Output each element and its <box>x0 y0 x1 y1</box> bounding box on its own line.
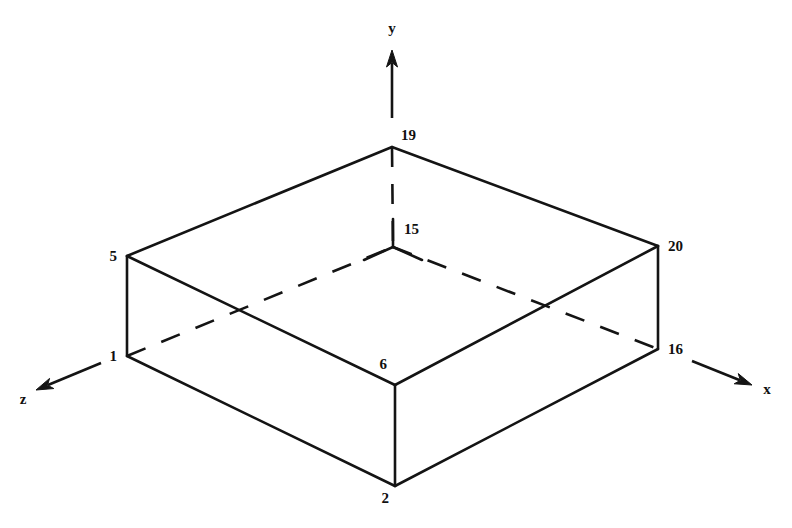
z-axis-label: z <box>20 391 27 407</box>
z-axis-arrow: z <box>20 363 101 407</box>
node-1-label: 1 <box>110 348 118 364</box>
hidden-edge-1-15 <box>127 247 393 356</box>
hidden-edge-group <box>127 147 658 356</box>
y-axis-arrow: y <box>387 20 398 118</box>
x-axis-line <box>692 361 740 380</box>
hidden-corner-stub-down-right <box>393 247 422 260</box>
node-16-label: 16 <box>668 341 684 357</box>
z-axis-line <box>48 363 101 385</box>
hidden-edge-15-16 <box>393 247 658 349</box>
node-20-label: 20 <box>668 238 683 254</box>
edge-19-20 <box>392 147 658 246</box>
figure-container: y x z 191552016162 <box>0 0 792 528</box>
node-2-label: 2 <box>382 490 390 506</box>
hidden-corner-stub-down-left <box>364 247 393 260</box>
edge-6-20 <box>395 246 658 385</box>
node-5-label: 5 <box>110 248 118 264</box>
node-6-label: 6 <box>380 356 388 372</box>
node-19-label: 19 <box>401 127 416 143</box>
isometric-box-diagram: y x z 191552016162 <box>0 0 792 528</box>
x-axis-arrow: x <box>692 361 771 397</box>
node-label-group: 191552016162 <box>110 127 684 506</box>
edge-5-6 <box>127 256 395 385</box>
x-axis-label: x <box>763 381 771 397</box>
edge-2-16 <box>395 349 658 486</box>
node-15-label: 15 <box>404 221 419 237</box>
edge-5-19 <box>127 147 392 256</box>
edge-1-2 <box>127 356 395 486</box>
y-axis-label: y <box>388 20 396 36</box>
